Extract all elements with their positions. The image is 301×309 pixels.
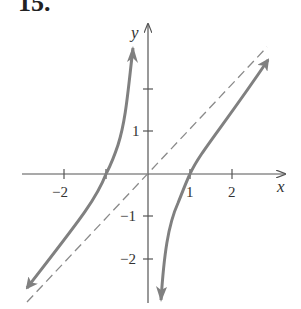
- x-tick-label-2: 2: [228, 184, 236, 200]
- curve-left-branch: [27, 48, 133, 288]
- y-tick-label-neg2: −2: [120, 251, 136, 267]
- x-tick-label-neg2: −2: [52, 184, 68, 200]
- y-tick-label-1: 1: [132, 123, 140, 139]
- x-axis-label: x: [276, 177, 285, 196]
- y-axis-label: y: [129, 23, 139, 42]
- curve-right-branch: [161, 60, 268, 300]
- x-tick-label-1: 1: [186, 184, 194, 200]
- graph: −2 1 2 1 −1 −2 x y: [0, 0, 301, 309]
- y-tick-label-neg1: −1: [120, 208, 136, 224]
